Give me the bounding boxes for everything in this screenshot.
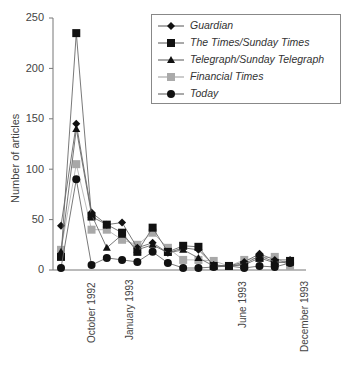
x-tick-label: December 1993 [299,281,310,352]
y-axis-title: Number of articles [9,114,21,203]
data-point-marker [88,261,96,269]
legend-item-financial-times: Financial Times [152,69,340,85]
y-tick-200: 200 [18,62,44,74]
series-line [61,124,290,266]
legend-item-telegraph: Telegraph/Sunday Telegraph [152,52,340,68]
x-tick-label: January 1993 [124,279,135,340]
data-point-marker [133,258,141,266]
data-point-marker [149,224,157,232]
legend-label: Telegraph/Sunday Telegraph [190,53,324,65]
data-point-marker [256,262,264,270]
data-point-marker [72,175,80,183]
y-tick-100: 100 [18,163,44,175]
data-point-marker [72,29,80,37]
data-point-marker [118,219,126,227]
gray-square-marker-icon [158,69,184,85]
y-tick-250: 250 [18,11,44,23]
legend-label: Today [190,87,218,99]
legend-label: Guardian [190,19,233,31]
data-point-marker [286,259,294,267]
data-point-marker [179,256,187,264]
data-point-marker [72,125,80,132]
legend-item-today: Today [152,86,340,102]
data-point-marker [118,256,126,264]
legend-label: The Times/Sunday Times [190,36,309,48]
triangle-marker-icon [158,52,184,68]
data-point-marker [240,264,248,272]
y-tick-0: 0 [18,263,44,275]
data-point-marker [194,243,202,251]
data-point-marker [194,264,202,272]
data-point-marker [210,263,218,271]
legend-item-guardian: Guardian [152,18,340,34]
data-point-marker [57,264,65,272]
data-point-marker [179,264,187,272]
data-point-marker [88,226,96,234]
square-marker-icon [158,35,184,51]
x-tick-label: October 1992 [86,282,97,343]
data-point-marker [103,221,111,229]
data-point-marker [271,263,279,271]
legend-item-times: The Times/Sunday Times [152,35,340,51]
circle-marker-icon [158,86,184,102]
y-tick-50: 50 [18,213,44,225]
data-point-marker [225,262,233,270]
x-tick-label: June 1993 [237,281,248,328]
series-line [61,129,290,266]
data-point-marker [103,254,111,262]
line-chart: Number of articles 250 200 150 100 50 0 … [0,0,346,368]
data-point-marker [149,248,157,256]
diamond-marker-icon [158,18,184,34]
legend-label: Financial Times [190,70,263,82]
y-tick-150: 150 [18,112,44,124]
data-point-marker [72,160,80,168]
data-point-marker [164,259,172,267]
legend: Guardian The Times/Sunday Times Telegrap… [151,14,341,104]
